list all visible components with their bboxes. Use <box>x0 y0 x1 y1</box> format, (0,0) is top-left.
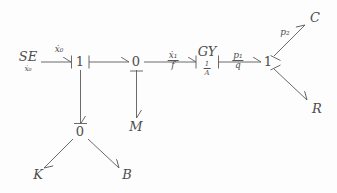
node-junction-0-low[interactable]: 0 <box>76 125 84 138</box>
bond-label-se-to-1: ẋ₀ <box>55 45 64 54</box>
gy-fraction-denominator: A <box>203 68 210 77</box>
node-element-b[interactable]: B <box>122 168 132 181</box>
node-gy-sublabel: 1 A <box>198 60 217 77</box>
node-source-effort-se[interactable]: SE ẋ₀ <box>19 50 37 74</box>
node-junction-1-right[interactable]: 1 <box>264 55 272 68</box>
bond-label-gy-to-1: p₁ q <box>232 51 243 71</box>
bond-label-gy-to-1-top: p₁ <box>232 51 243 60</box>
bond-0low-to-b <box>88 139 119 168</box>
node-gy-label: GY <box>198 45 217 60</box>
bond-label-1-to-c: p₂ <box>280 28 289 37</box>
node-element-c[interactable]: C <box>310 11 320 24</box>
node-se-label: SE <box>19 50 37 65</box>
node-element-m[interactable]: M <box>129 120 142 133</box>
node-gyrator-gy[interactable]: GY 1 A <box>198 45 217 77</box>
node-se-sublabel: ẋ₀ <box>19 65 37 74</box>
bond-0low-to-k <box>44 139 73 168</box>
node-junction-1-left[interactable]: 1 <box>76 55 84 68</box>
node-junction-0-mid[interactable]: 0 <box>132 55 140 68</box>
node-element-k[interactable]: K <box>33 168 43 181</box>
bond-label-0-to-gy-bottom: f <box>168 61 179 71</box>
gy-fraction-numerator: 1 <box>203 60 210 68</box>
bond-label-0-to-gy: ẋ₁ f <box>168 51 179 71</box>
bond-label-gy-to-1-bottom: q <box>232 61 243 71</box>
bond-label-0-to-gy-top: ẋ₁ <box>168 51 179 60</box>
node-element-r[interactable]: R <box>312 102 322 115</box>
bond-1-to-r <box>274 69 307 100</box>
bond-graph-diagram: SE ẋ₀ 1 0 GY 1 A 1 0 M K B C R ẋ₀ ẋ₁ … <box>0 0 337 193</box>
